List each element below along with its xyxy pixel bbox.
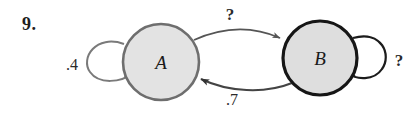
edge-label-a-to-b: ? xyxy=(226,5,235,24)
node-b-label: B xyxy=(314,48,326,69)
edge-label-b-to-a: .7 xyxy=(226,91,238,108)
state-diagram-canvas: A B ? .7 .4 ? xyxy=(0,0,415,113)
a-to-b-path xyxy=(194,30,280,40)
edge-label-a-self-loop: .4 xyxy=(66,56,78,73)
node-a[interactable]: A xyxy=(123,24,199,100)
edge-a-to-b[interactable] xyxy=(194,30,280,40)
figure-container: 9. xyxy=(0,0,415,113)
node-a-label: A xyxy=(153,52,167,73)
node-b[interactable]: B xyxy=(283,21,357,95)
edge-label-b-self-loop: ? xyxy=(395,51,404,70)
edge-b-to-a[interactable] xyxy=(201,79,292,90)
b-to-a-path xyxy=(201,79,292,90)
